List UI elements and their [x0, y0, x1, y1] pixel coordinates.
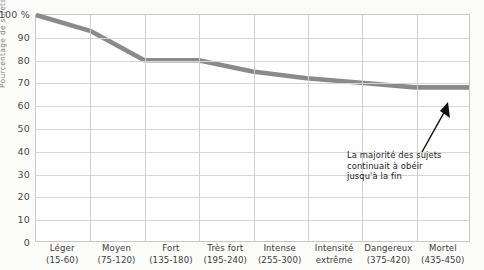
- gridline-vertical: [254, 15, 255, 241]
- gridline-vertical: [145, 15, 146, 241]
- annotation-text: La majorité des sujetscontinuait à obéir…: [347, 150, 479, 182]
- gridline-vertical: [199, 15, 200, 241]
- annotation-line: La majorité des sujets: [347, 150, 479, 161]
- x-tick-label: Mortel(435-450): [416, 243, 470, 266]
- gridline-horizontal: [36, 106, 469, 107]
- y-tick-label: 0: [24, 237, 30, 248]
- gridline-vertical: [308, 15, 309, 241]
- y-tick-label: 80: [18, 54, 31, 65]
- y-tick-label: 20: [18, 191, 31, 202]
- gridline-horizontal: [36, 38, 469, 39]
- y-tick-label: 10: [18, 214, 31, 225]
- gridline-vertical: [362, 15, 363, 241]
- x-tick-label: Moyen(75-120): [89, 243, 143, 266]
- y-tick-label: 100 %: [0, 9, 30, 20]
- chart-figure: Pourcentage de sujets obéissants 100 %90…: [0, 0, 484, 270]
- gridline-horizontal: [36, 61, 469, 62]
- y-tick-label: 50: [18, 123, 31, 134]
- x-tick-label: Dangereux(375-420): [361, 243, 415, 266]
- y-tick-label: 40: [18, 145, 31, 156]
- annotation-line: jusqu'à la fin: [347, 171, 479, 182]
- x-tick-label: Léger(15-60): [35, 243, 89, 266]
- x-tick-label: Très fort(195-240): [198, 243, 252, 266]
- y-axis-tick-labels: 100 %9080706050403020100: [0, 14, 33, 242]
- y-tick-label: 60: [18, 100, 31, 111]
- x-tick-label: Fort(135-180): [144, 243, 198, 266]
- annotation-line: continuait à obéir: [347, 161, 479, 172]
- gridline-horizontal: [36, 220, 469, 221]
- plot-area: [35, 14, 470, 242]
- data-series-line: [36, 15, 469, 241]
- x-axis-tick-labels: Léger(15-60)Moyen(75-120)Fort(135-180)Tr…: [35, 243, 470, 270]
- x-tick-label: Intensité extrême: [307, 243, 361, 266]
- y-tick-label: 70: [18, 77, 31, 88]
- gridline-horizontal: [36, 197, 469, 198]
- gridline-horizontal: [36, 83, 469, 84]
- y-tick-label: 30: [18, 168, 31, 179]
- annotation-arrow-icon: [414, 96, 466, 154]
- gridline-vertical: [90, 15, 91, 241]
- x-tick-label: Intense(255-300): [253, 243, 307, 266]
- y-tick-label: 90: [18, 31, 31, 42]
- gridline-horizontal: [36, 129, 469, 130]
